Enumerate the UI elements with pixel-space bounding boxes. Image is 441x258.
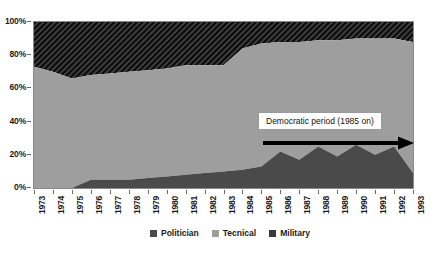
x-tick-mark xyxy=(337,190,338,194)
x-tick-label: 1989 xyxy=(341,196,350,214)
y-axis: 100% 80% 60% 40% 20% 0% xyxy=(0,14,31,198)
x-tick-mark xyxy=(394,190,395,194)
area-series-svg xyxy=(34,22,413,188)
legend-item-tecnical: Tecnical xyxy=(212,228,256,238)
y-tick-mark xyxy=(27,121,31,122)
legend-swatch-politician-icon xyxy=(150,230,157,237)
y-tick-label: 20% xyxy=(10,150,26,159)
y-tick-label: 100% xyxy=(5,17,26,26)
x-tick-mark xyxy=(167,190,168,194)
legend-item-military: Military xyxy=(269,228,310,238)
x-tick-label: 1986 xyxy=(284,196,293,214)
x-tick-label: 1980 xyxy=(171,196,180,214)
y-tick-mark xyxy=(27,154,31,155)
x-tick-mark xyxy=(148,190,149,194)
x-tick-mark xyxy=(261,190,262,194)
legend-swatch-military-icon xyxy=(269,230,276,237)
x-tick-label: 1979 xyxy=(152,196,161,214)
x-tick-label: 1973 xyxy=(38,196,47,214)
annotation-arrow-icon xyxy=(262,136,414,150)
x-tick-label: 1977 xyxy=(114,196,123,214)
x-tick-mark xyxy=(318,190,319,194)
legend-label-tecnical: Tecnical xyxy=(223,228,256,238)
x-tick-mark xyxy=(91,190,92,194)
y-tick-mark xyxy=(27,87,31,88)
legend-label-military: Military xyxy=(280,228,310,238)
x-tick-label: 1974 xyxy=(57,196,66,214)
x-tick-label: 1978 xyxy=(133,196,142,214)
x-tick-mark xyxy=(53,190,54,194)
x-tick-label: 1988 xyxy=(322,196,331,214)
legend-item-politician: Politician xyxy=(150,228,199,238)
y-tick-label: 80% xyxy=(10,50,26,59)
y-tick-mark xyxy=(27,187,31,188)
x-tick-mark xyxy=(186,190,187,194)
x-tick-mark xyxy=(110,190,111,194)
stacked-area-chart: 100% 80% 60% 40% 20% 0% 1973197419751976… xyxy=(0,0,441,258)
x-tick-mark xyxy=(34,190,35,194)
x-tick-mark xyxy=(356,190,357,194)
x-tick-label: 1987 xyxy=(303,196,312,214)
x-tick-label: 1982 xyxy=(209,196,218,214)
plot-area xyxy=(33,21,414,189)
x-tick-mark xyxy=(205,190,206,194)
y-tick-mark xyxy=(27,54,31,55)
x-tick-mark xyxy=(129,190,130,194)
x-tick-label: 1990 xyxy=(360,196,369,214)
x-tick-label: 1992 xyxy=(398,196,407,214)
annotation-democratic-period: Democratic period (1985 on) xyxy=(258,112,382,130)
x-tick-label: 1991 xyxy=(379,196,388,214)
x-tick-label: 1976 xyxy=(95,196,104,214)
x-tick-mark xyxy=(280,190,281,194)
y-tick-mark xyxy=(27,21,31,22)
x-tick-mark xyxy=(413,190,414,194)
x-tick-mark xyxy=(242,190,243,194)
chart-legend: Politician Tecnical Military xyxy=(150,228,310,238)
x-tick-label: 1993 xyxy=(417,196,426,214)
x-tick-label: 1985 xyxy=(265,196,274,214)
y-tick-label: 0% xyxy=(14,183,26,192)
y-tick-label: 40% xyxy=(10,117,26,126)
legend-label-politician: Politician xyxy=(161,228,199,238)
x-tick-label: 1975 xyxy=(76,196,85,214)
y-tick-label: 60% xyxy=(10,83,26,92)
x-tick-mark xyxy=(299,190,300,194)
legend-swatch-tecnical-icon xyxy=(212,230,219,237)
x-tick-label: 1984 xyxy=(246,196,255,214)
x-tick-label: 1981 xyxy=(190,196,199,214)
x-tick-mark xyxy=(72,190,73,194)
x-tick-label: 1983 xyxy=(228,196,237,214)
x-tick-mark xyxy=(224,190,225,194)
x-tick-mark xyxy=(375,190,376,194)
